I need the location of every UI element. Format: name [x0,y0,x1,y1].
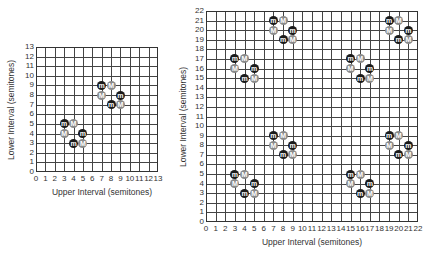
grid-line [207,155,417,156]
major-marker: M [365,189,374,198]
large-chart-y-axis-label: Lower Interval (semitones) [178,62,188,172]
minor-marker: m [250,179,259,188]
major-marker: M [346,64,355,73]
large-chart-x-axis-label: Upper Interval (semitones) [257,237,367,247]
minor-marker: m [230,170,239,179]
large-y-tick-label: 12 [190,102,204,111]
large-y-tick-label: 19 [190,35,204,44]
major-marker: M [385,26,394,35]
minor-marker: m [356,74,365,83]
major-marker: M [356,170,365,179]
minor-marker: m [356,189,365,198]
large-y-tick-label: 14 [190,83,204,92]
major-marker: M [279,16,288,25]
large-y-tick-label: 0 [190,217,204,226]
large-y-tick-label: 4 [190,179,204,188]
large-y-tick-label: 18 [190,44,204,53]
grid-line [207,126,417,127]
grid-line [207,88,417,89]
large-x-tick-label: 22 [412,224,424,233]
major-marker: M [240,170,249,179]
minor-marker: m [240,74,249,83]
grid-line [207,203,417,204]
minor-marker: m [404,141,413,150]
grid-line [207,40,417,41]
large-y-tick-label: 22 [190,6,204,15]
large-y-tick-label: 1 [190,207,204,216]
major-marker: M [385,141,394,150]
minor-marker: m [288,141,297,150]
large-y-tick-label: 20 [190,25,204,34]
large-chart-grid [206,11,418,222]
major-marker: M [365,74,374,83]
grid-line [207,49,417,50]
minor-marker: m [279,35,288,44]
minor-marker: m [385,131,394,140]
grid-line [207,212,417,213]
large-y-tick-label: 3 [190,188,204,197]
large-chart: Lower Interval (semitones) Upper Interva… [0,0,435,257]
large-y-tick-label: 16 [190,64,204,73]
major-marker: M [269,26,278,35]
large-y-tick-label: 7 [190,150,204,159]
large-y-tick-label: 9 [190,131,204,140]
major-marker: M [269,141,278,150]
large-y-tick-label: 15 [190,73,204,82]
grid-line [207,78,417,79]
grid-line [207,193,417,194]
large-y-tick-label: 2 [190,198,204,207]
minor-marker: m [346,170,355,179]
major-marker: M [279,131,288,140]
minor-marker: m [385,16,394,25]
grid-line [207,107,417,108]
minor-marker: m [279,150,288,159]
minor-marker: m [240,189,249,198]
minor-marker: m [288,26,297,35]
minor-marker: m [250,64,259,73]
large-y-tick-label: 21 [190,16,204,25]
minor-marker: m [269,16,278,25]
minor-marker: m [404,26,413,35]
large-y-tick-label: 8 [190,140,204,149]
major-marker: M [250,74,259,83]
large-y-tick-label: 13 [190,92,204,101]
large-y-tick-label: 11 [190,112,204,121]
large-y-tick-label: 17 [190,54,204,63]
grid-line [207,164,417,165]
large-y-tick-label: 6 [190,159,204,168]
major-marker: M [250,189,259,198]
grid-line [207,97,417,98]
grid-line [207,117,417,118]
large-y-tick-label: 5 [190,169,204,178]
large-y-tick-label: 10 [190,121,204,130]
